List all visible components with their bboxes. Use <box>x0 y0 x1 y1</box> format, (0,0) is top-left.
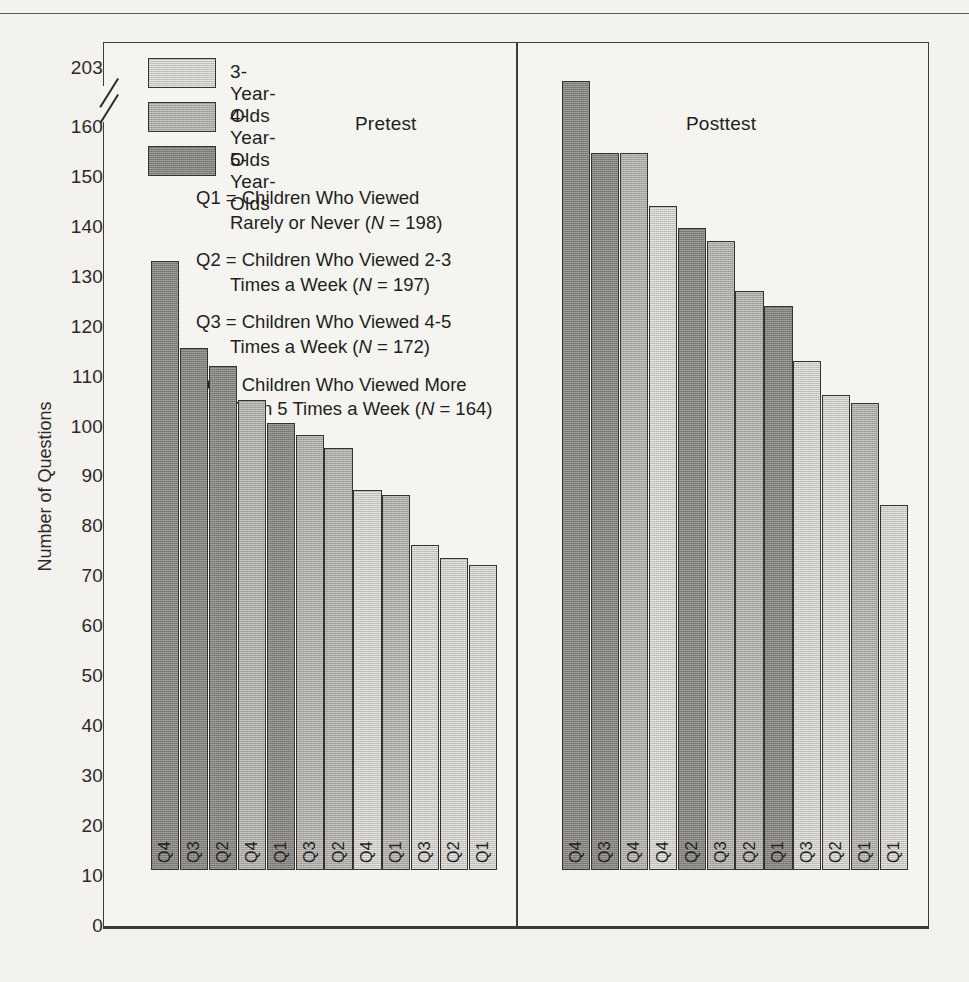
bar-label: Q2 <box>741 841 759 863</box>
bar-label: Q1 <box>885 841 903 863</box>
bar: Q3 <box>591 153 619 870</box>
bar-label: Q3 <box>596 841 614 863</box>
bar-label: Q4 <box>625 841 643 863</box>
x-axis-baseline <box>103 926 929 929</box>
bar: Q2 <box>822 395 850 870</box>
bar-label: Q4 <box>567 841 585 863</box>
bar-label: Q4 <box>654 841 672 863</box>
bar: Q2 <box>678 228 706 870</box>
bar: Q1 <box>880 505 908 870</box>
bar-label: Q1 <box>769 841 787 863</box>
bar-label: Q3 <box>798 841 816 863</box>
bars-posttest: Q4Q3Q4Q4Q2Q3Q2Q1Q3Q2Q1Q1 <box>0 0 969 926</box>
bar-label: Q1 <box>856 841 874 863</box>
bar-label: Q2 <box>827 841 845 863</box>
bar: Q3 <box>793 361 821 870</box>
bar-label: Q2 <box>683 841 701 863</box>
bar: Q1 <box>851 403 879 870</box>
bar: Q2 <box>735 291 763 870</box>
bar: Q4 <box>620 153 648 870</box>
bar: Q4 <box>649 206 677 870</box>
bar: Q4 <box>562 81 590 870</box>
chart-page: Number of Questions 01020304050607080901… <box>0 0 969 982</box>
bar: Q1 <box>764 306 792 870</box>
bar-label: Q3 <box>712 841 730 863</box>
bar: Q3 <box>707 241 735 870</box>
